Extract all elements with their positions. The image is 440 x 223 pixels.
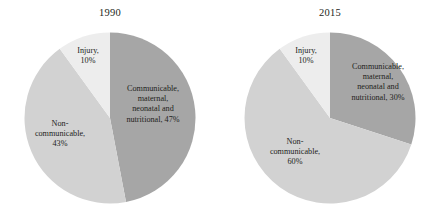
chart-panel-1990: 1990 Communicable, maternal, neonatal an…	[0, 0, 220, 223]
pie-chart-figure: 1990 Communicable, maternal, neonatal an…	[0, 0, 440, 223]
pie-slice-communicable	[110, 33, 196, 202]
pie-chart-2015	[244, 32, 416, 204]
pie-svg-1990	[24, 32, 196, 204]
chart-panel-2015: 2015 Communicable, maternal, neonatal an…	[220, 0, 440, 223]
pie-svg-2015	[244, 32, 416, 204]
panel-title-1990: 1990	[0, 7, 220, 19]
pie-slices-2015	[244, 33, 415, 204]
pie-chart-1990	[24, 32, 196, 204]
pie-slices-1990	[24, 33, 195, 204]
panel-title-2015: 2015	[220, 7, 440, 19]
